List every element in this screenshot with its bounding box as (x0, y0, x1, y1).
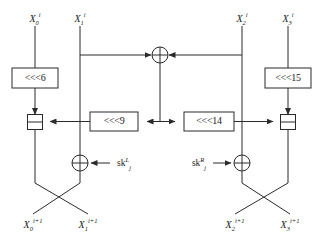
round-function-diagram: <<<6 <<<9 <<<14 <<<15 (0, 0, 320, 238)
wire-xor-left-output-cross (33, 171, 80, 214)
output-label-x0: X0i+1 (23, 217, 43, 232)
xor-layer (72, 47, 250, 171)
output-label-x3: X3i+1 (280, 217, 300, 232)
rotate-left-9-label: <<<9 (104, 115, 125, 126)
modular-adder-right[interactable] (281, 115, 296, 130)
wire-xor-right-output-cross (242, 171, 290, 214)
wire-add-right-output-cross (235, 130, 288, 215)
output-label-x2: X2i+1 (225, 217, 245, 232)
rotate-left-14-label: <<<14 (196, 115, 222, 126)
input-label-x0: X0i (28, 11, 40, 26)
input-label-x3: X3i (281, 11, 293, 26)
subkey-label-layer: skLj skRj (117, 156, 206, 171)
rotate-left-15-node[interactable]: <<<15 (265, 68, 311, 88)
output-label-layer: X0i+1 X1i+1 X2i+1 X3i+1 (23, 217, 300, 232)
rotate-left-6-label: <<<6 (25, 72, 46, 83)
subkey-label-left: skLj (117, 156, 131, 171)
input-label-x1: X1i (73, 11, 85, 26)
rotate-left-14-node[interactable]: <<<14 (184, 112, 234, 131)
rotate-left-6-node[interactable]: <<<6 (12, 68, 58, 88)
modular-adder-left[interactable] (28, 115, 43, 130)
rotate-left-9-node[interactable]: <<<9 (90, 112, 138, 131)
xor-top-node[interactable] (152, 47, 168, 63)
input-label-layer: X0i X1i X2i X3i (28, 11, 293, 26)
xor-subkey-right-node[interactable] (234, 155, 250, 171)
subkey-label-right: skRj (192, 156, 206, 171)
input-label-x2: X2i (235, 11, 247, 26)
rotate-left-15-label: <<<15 (275, 72, 301, 83)
diagram-root: <<<6 <<<9 <<<14 <<<15 (0, 0, 320, 238)
xor-subkey-left-node[interactable] (72, 155, 88, 171)
output-label-x1: X1i+1 (78, 217, 98, 232)
